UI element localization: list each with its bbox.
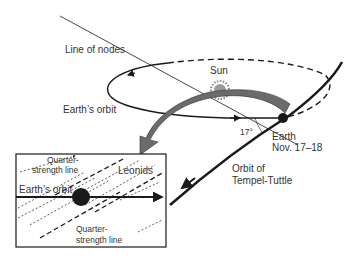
- line-of-nodes: [60, 16, 298, 145]
- earths-orbit-dashed: [168, 59, 330, 118]
- inset-label-quarter-top-1: Quarter-: [47, 155, 79, 165]
- inset-panel: Quarter- strength line Leonids Earth’s o…: [16, 154, 166, 247]
- label-earth: Earth: [272, 131, 296, 142]
- inset-label-quarter-bottom-1: Quarter-: [76, 224, 108, 234]
- inset-label-leonids: Leonids: [118, 165, 153, 176]
- zoom-arrow: [140, 90, 290, 155]
- label-comet-orbit-1: Orbit of: [232, 163, 265, 174]
- orbit-arrow-icon: [128, 73, 135, 75]
- inset-label-quarter-bottom-2: strength line: [76, 235, 123, 245]
- label-earth-date: Nov. 17–18: [272, 142, 323, 153]
- earth-dot: [278, 113, 288, 123]
- label-angle: 17°: [240, 127, 253, 137]
- label-comet-orbit-2: Tempel-Tuttle: [232, 175, 293, 186]
- label-line-of-nodes: Line of nodes: [65, 44, 125, 55]
- inset-label-quarter-top-2: strength line: [32, 165, 79, 175]
- leonids-diagram: Line of nodes Sun Earth’s orbit 17° Eart…: [0, 0, 357, 260]
- inset-earth: [72, 188, 90, 206]
- label-sun: Sun: [210, 65, 228, 76]
- label-earths-orbit: Earth’s orbit: [63, 104, 116, 115]
- earths-orbit-solid: [108, 63, 283, 118]
- inset-label-earths-orbit: Earth’s orbit: [19, 184, 72, 195]
